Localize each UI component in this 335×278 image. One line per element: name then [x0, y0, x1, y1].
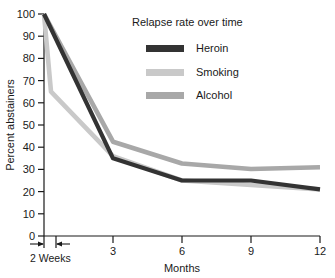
x-axis-ticks [113, 236, 320, 243]
y-tick-label: 0 [29, 230, 35, 242]
chart-legend: Relapse rate over time Heroin Smoking Al… [132, 16, 243, 101]
two-weeks-annotation: 2 Weeks [30, 236, 71, 264]
legend-swatch-heroin [146, 45, 184, 52]
y-tick-label: 40 [23, 141, 35, 153]
two-weeks-arrowhead-left [38, 241, 44, 246]
series-line-alcohol [44, 14, 320, 169]
legend-swatch-smoking [146, 69, 184, 76]
legend-swatch-alcohol [146, 92, 184, 99]
two-weeks-arrowhead-right [56, 241, 62, 246]
chart-canvas: 100 90 80 70 60 50 40 30 20 10 0 3 6 9 1… [0, 0, 335, 278]
y-tick-label: 30 [23, 163, 35, 175]
x-tick-label: 9 [248, 245, 254, 257]
y-axis-title: Percent abstainers [4, 79, 16, 171]
y-tick-label: 60 [23, 97, 35, 109]
y-axis-tick-labels: 100 90 80 70 60 50 40 30 20 10 0 [17, 8, 35, 242]
x-tick-label: 3 [110, 245, 116, 257]
two-weeks-label: 2 Weeks [30, 252, 71, 264]
y-axis-ticks [38, 14, 44, 236]
x-tick-label: 6 [179, 245, 185, 257]
y-tick-label: 80 [23, 52, 35, 64]
legend-label-smoking: Smoking [196, 66, 239, 78]
y-tick-label: 100 [17, 8, 35, 20]
legend-label-alcohol: Alcohol [196, 89, 232, 101]
x-axis-title: Months [164, 262, 201, 274]
legend-label-heroin: Heroin [196, 42, 228, 54]
y-tick-label: 90 [23, 30, 35, 42]
y-tick-label: 50 [23, 119, 35, 131]
relapse-rate-chart: 100 90 80 70 60 50 40 30 20 10 0 3 6 9 1… [0, 0, 335, 278]
y-tick-label: 70 [23, 75, 35, 87]
y-tick-label: 10 [23, 208, 35, 220]
x-axis-tick-labels: 3 6 9 12 [110, 245, 326, 257]
x-tick-label: 12 [314, 245, 326, 257]
y-tick-label: 20 [23, 186, 35, 198]
legend-title: Relapse rate over time [132, 16, 243, 28]
